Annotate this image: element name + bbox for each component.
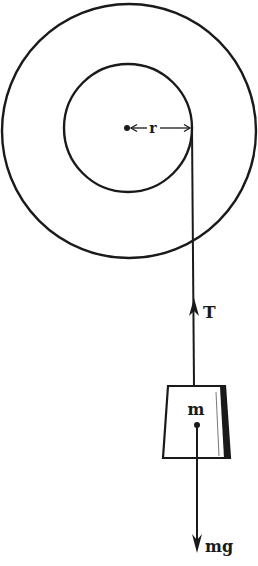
outer-pulley-circle: [2, 4, 256, 258]
radius-label: r: [149, 120, 157, 136]
radius-dimension: [131, 125, 190, 132]
rope: [192, 128, 194, 386]
pulley-diagram: r T m mg: [0, 0, 258, 566]
center-dot: [124, 125, 130, 131]
tension-label: T: [203, 302, 216, 322]
weight-label: mg: [205, 537, 233, 556]
mass-label: m: [188, 400, 205, 419]
